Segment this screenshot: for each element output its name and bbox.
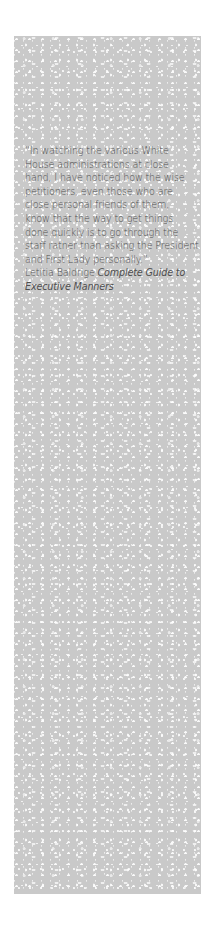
- quote-line: close personal friends of them,: [25, 198, 197, 212]
- quote-block: “In watching the various White House adm…: [25, 144, 197, 294]
- quote-author: Letitia Baldrige: [25, 267, 95, 278]
- quote-line: know that the way to get things: [25, 212, 197, 226]
- quote-line: and First Lady personally.”: [25, 253, 197, 267]
- quote-source: Complete Guide to: [98, 267, 186, 278]
- quote-attribution-cont: Executive Manners: [25, 280, 197, 294]
- quote-line: petitioners, even those who are: [25, 185, 197, 199]
- quote-line: done quickly is to go through the: [25, 226, 197, 240]
- quote-line: staff rather than asking the President: [25, 239, 197, 253]
- quote-source-cont: Executive Manners: [25, 281, 114, 292]
- quote-attribution: Letitia Baldrige Complete Guide to: [25, 266, 197, 280]
- quote-line: House administrations at close: [25, 158, 197, 172]
- quote-line: “In watching the various White: [25, 144, 197, 158]
- quote-line: hand, I have noticed how the wise: [25, 171, 197, 185]
